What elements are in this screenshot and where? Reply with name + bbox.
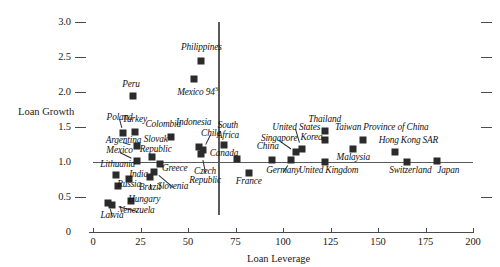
x-axis-tick-label: 200 — [453, 236, 493, 247]
x-axis-tick — [378, 228, 379, 233]
y-axis-origin-stub — [93, 228, 94, 233]
data-point-label-hong-kong-sar: Hong Kong SAR — [379, 136, 439, 146]
data-point-united-states[interactable] — [299, 145, 306, 152]
data-point-label-czech-republic: CzechRepublic — [189, 167, 221, 187]
y-axis-tick — [75, 92, 86, 93]
y-axis-tick-right — [481, 92, 492, 93]
x-axis-tick-label: 125 — [311, 236, 351, 247]
x-axis-tick-label: 175 — [406, 236, 446, 247]
data-point-label-hungary: Hungary — [128, 195, 160, 205]
y-axis-tick — [75, 197, 86, 198]
data-point-label-slovenia: Slovenia — [157, 182, 188, 192]
data-point-label-philippines: Philippines — [181, 43, 222, 53]
data-point-label-argentina: Argentina — [106, 136, 142, 146]
y-axis-tick — [75, 127, 86, 128]
data-point-label-japan: Japan — [437, 166, 459, 176]
x-axis-tick-label: 50 — [168, 236, 208, 247]
data-point-label-canada: Canada — [210, 149, 239, 159]
data-point-slovenia[interactable] — [150, 168, 157, 175]
data-point-label-united-kingdom: United Kingdom — [299, 166, 359, 176]
data-point-label-korea: Korea — [300, 133, 322, 143]
x-axis-tick-label: 150 — [358, 236, 398, 247]
y-axis-tick-label: 0 — [23, 226, 71, 237]
y-axis-title: Loan Growth — [18, 106, 74, 117]
x-axis-tick — [188, 228, 189, 233]
x-axis-tick — [283, 228, 284, 233]
data-point-philippines[interactable] — [198, 57, 205, 64]
y-axis-tick-label: 2.5 — [23, 51, 71, 62]
data-point-label-mexico-94: Mexico 943 — [177, 86, 218, 98]
plot-area: 025507510012515017520000.51.01.52.02.53.… — [0, 0, 500, 267]
data-point-label-indonesia: Indonesia — [176, 118, 211, 128]
scatter-chart-figure: 025507510012515017520000.51.01.52.02.53.… — [0, 0, 500, 267]
y-axis-tick-right — [481, 197, 492, 198]
data-point-taiwan-province-of-china[interactable] — [359, 136, 366, 143]
data-point-label-greece: Greece — [162, 164, 188, 174]
data-point-label-singapore: Singapore — [261, 134, 298, 144]
data-point-label-mexico: Mexico — [106, 146, 132, 156]
loan-growth-reference-line — [93, 162, 473, 163]
y-axis-tick-label: 3.0 — [23, 16, 71, 27]
data-point-japan[interactable] — [433, 157, 440, 164]
x-axis-tick — [331, 228, 332, 233]
data-point-peru[interactable] — [129, 92, 136, 99]
y-axis-tick — [75, 57, 86, 58]
x-axis-tick — [141, 228, 142, 233]
data-point-south-africa[interactable] — [221, 141, 228, 148]
x-axis-tick-label: 75 — [216, 236, 256, 247]
data-point-slovak-republic[interactable] — [148, 154, 155, 161]
x-axis-tick — [473, 228, 474, 233]
data-point-label-turkey: Turkey — [123, 115, 147, 125]
data-point-label-germany: Germany — [266, 166, 300, 176]
y-axis-tick-label: 2.0 — [23, 86, 71, 97]
data-point-label-malaysia: Malaysia — [337, 153, 370, 163]
data-point-germany[interactable] — [287, 156, 294, 163]
x-axis-tick-label: 0 — [73, 236, 113, 247]
data-point-label-taiwan-province-of-china: Taiwan Province of China — [335, 123, 429, 133]
x-axis-title: Loan Leverage — [247, 253, 310, 264]
data-point-label-france: France — [236, 177, 262, 187]
data-point-label-venezuela: Venezuela — [119, 206, 155, 216]
data-point-hong-kong-sar[interactable] — [392, 149, 399, 156]
y-axis-tick-right — [481, 127, 492, 128]
y-axis-tick-right — [481, 22, 492, 23]
data-point-lithuania[interactable] — [112, 171, 119, 178]
y-axis-tick — [75, 22, 86, 23]
data-point-label-peru: Peru — [122, 80, 139, 90]
data-point-thailand[interactable] — [321, 128, 328, 135]
y-axis-tick-label: 0.5 — [23, 191, 71, 202]
y-axis-tick-label: 1.0 — [23, 156, 71, 167]
data-point-label-slovak-republic: SlovakRepublic — [140, 135, 172, 155]
data-point-china[interactable] — [268, 156, 275, 163]
data-point-czech-republic[interactable] — [198, 150, 205, 157]
x-axis-tick-label: 100 — [263, 236, 303, 247]
data-point-venezuela[interactable] — [109, 202, 116, 209]
data-point-label-russia: Russia — [117, 180, 141, 190]
y-axis-tick-label: 1.5 — [23, 121, 71, 132]
x-axis-tick — [426, 228, 427, 233]
x-axis-tick — [236, 228, 237, 233]
x-axis-tick-label: 25 — [121, 236, 161, 247]
y-axis-tick-right — [481, 57, 492, 58]
data-point-label-switzerland: Switzerland — [389, 166, 431, 176]
data-point-label-south-africa: SouthAfrica — [217, 121, 239, 141]
data-point-mexico-94[interactable] — [190, 76, 197, 83]
